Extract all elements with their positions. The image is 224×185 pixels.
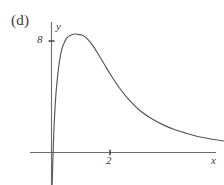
- y-axis-tick-label-8: 8: [37, 34, 43, 45]
- figure-panel: (d) y x 8 2: [0, 0, 224, 185]
- panel-label: (d): [11, 13, 29, 28]
- y-axis-label: y: [56, 21, 61, 32]
- x-axis-label: x: [211, 155, 216, 166]
- plot-area: [0, 0, 224, 185]
- data-curve: [52, 34, 224, 185]
- x-axis-tick-label-2: 2: [106, 155, 112, 166]
